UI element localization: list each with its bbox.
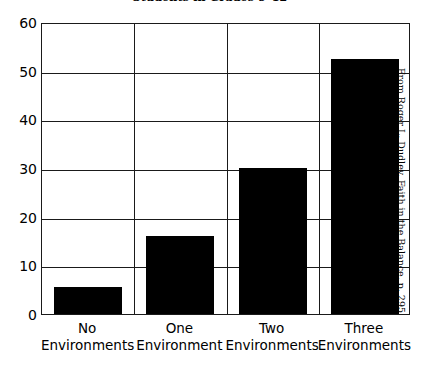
y-tick-label: 20 [3, 211, 37, 225]
x-tick-label: TwoEnvironments [226, 320, 318, 354]
plot-area [41, 23, 410, 315]
x-tick-label: NoEnvironments [41, 320, 133, 354]
y-tick-label: 60 [3, 16, 37, 30]
bar [239, 168, 307, 314]
y-tick-label: 0 [3, 308, 37, 322]
category-divider [227, 24, 228, 314]
category-divider [319, 24, 320, 314]
x-tick-line-1: One [133, 320, 225, 337]
y-tick-label: 10 [3, 259, 37, 273]
bar [331, 59, 399, 315]
x-tick-line-2: Environments [41, 337, 133, 354]
x-axis: NoEnvironmentsOneEnvironmentTwoEnvironme… [41, 320, 410, 364]
chart-title: Students in Grades 9–12 [0, 0, 420, 4]
source-attribution: From Roger L. Dudley, Faith in the Balan… [391, 23, 411, 315]
bar [54, 287, 122, 314]
y-axis: 0102030405060 [0, 23, 37, 315]
y-tick-label: 50 [3, 65, 37, 79]
category-divider [134, 24, 135, 314]
x-tick-line-1: No [41, 320, 133, 337]
x-tick-line-2: Environment [133, 337, 225, 354]
x-tick-line-2: Environments [318, 337, 410, 354]
x-tick-label: ThreeEnvironments [318, 320, 410, 354]
y-tick-label: 30 [3, 162, 37, 176]
x-tick-line-1: Two [226, 320, 318, 337]
x-tick-label: OneEnvironment [133, 320, 225, 354]
bar [146, 236, 214, 314]
y-tick-label: 40 [3, 113, 37, 127]
x-tick-line-1: Three [318, 320, 410, 337]
x-tick-line-2: Environments [226, 337, 318, 354]
